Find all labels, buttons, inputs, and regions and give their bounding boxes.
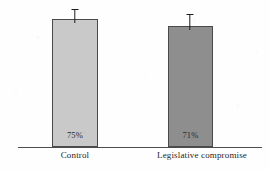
x-axis-label-legislative-compromise: Legislative compromise: [143, 150, 261, 160]
plot-area: 75% 71% Control Legislative compromise: [0, 0, 270, 170]
bar-chart-figure: 75% 71% Control Legislative compromise: [0, 0, 270, 170]
x-axis-baseline: [18, 147, 262, 148]
bar-control: 75%: [52, 19, 98, 147]
bar-value-label-legislative-compromise: 71%: [169, 130, 212, 140]
x-axis-label-control: Control: [37, 150, 113, 160]
error-bar-cap-top: [72, 9, 79, 10]
error-bar-legislative-compromise: [184, 14, 196, 30]
bar-legislative-compromise: 71%: [168, 26, 213, 147]
error-bar-cap-top: [187, 14, 194, 15]
error-bar-whisker: [189, 14, 190, 30]
error-bar-control: [69, 9, 81, 23]
bar-value-label-control: 75%: [53, 130, 97, 140]
error-bar-whisker: [74, 9, 75, 23]
